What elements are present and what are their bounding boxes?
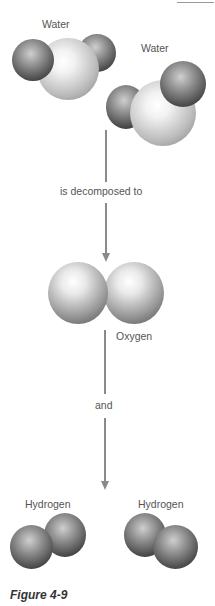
water-label-1: Water (42, 18, 70, 30)
top-rule (177, 2, 214, 3)
hydrogen-atom (12, 39, 54, 81)
hydrogen-atom (160, 61, 206, 107)
arrow-line (104, 330, 106, 394)
hydrogen-atom (10, 525, 53, 569)
hydrogen-label-2: Hydrogen (138, 498, 184, 510)
figure-caption: Figure 4-9 (10, 588, 67, 602)
hydrogen-label-1: Hydrogen (25, 498, 71, 510)
arrowhead-icon (102, 253, 110, 262)
arrow-line (104, 418, 106, 484)
oxygen-atom (48, 262, 108, 324)
hydrogen-atom (153, 525, 198, 569)
water-label-2: Water (141, 42, 169, 54)
oxygen-label: Oxygen (116, 330, 152, 342)
arrow-line (105, 203, 107, 255)
arrow-line (105, 130, 107, 182)
arrowhead-icon (101, 481, 109, 490)
arrow-label-and: and (95, 399, 113, 411)
oxygen-atom (104, 262, 164, 324)
arrow-label-decomposed: is decomposed to (60, 185, 142, 197)
